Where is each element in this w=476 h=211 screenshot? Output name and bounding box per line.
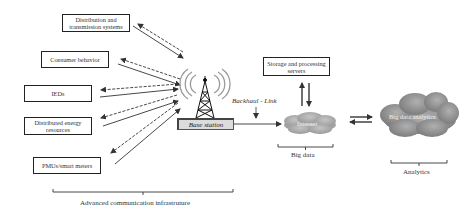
base-station: Base station xyxy=(177,118,234,130)
node-label: IEDs xyxy=(52,90,65,97)
node-label: Distributed energy resources xyxy=(27,119,89,133)
bracket-aci xyxy=(53,189,233,195)
node-ieds: IEDs xyxy=(24,85,92,102)
node-label: Consumer behavior xyxy=(50,56,100,63)
internet-label: Internet xyxy=(297,120,317,127)
node-label: PMUs/smart meters xyxy=(42,162,92,169)
node-consumer: Consumer behavior xyxy=(41,51,109,68)
aci-label: Advanced communication infrastruture xyxy=(80,199,190,207)
base-station-label: Base station xyxy=(189,121,223,129)
analytics-cloud-label: Big data analytics xyxy=(389,113,436,120)
node-label: Storage and processing servers xyxy=(266,60,327,74)
link-consumer xyxy=(118,59,180,85)
link-ieds xyxy=(100,84,178,97)
node-pmu: PMUs/smart meters xyxy=(33,157,101,174)
bracket-analytics xyxy=(391,160,447,166)
big-data-label: Big data xyxy=(291,151,315,159)
backhaul-link-label: Backhaul - Link xyxy=(232,97,277,105)
bracket-big-data xyxy=(278,144,333,150)
cell-tower-icon xyxy=(196,76,214,118)
link-der xyxy=(101,95,178,126)
analytics-label: Analytics xyxy=(403,168,430,176)
node-label: Distribution and transmission systems xyxy=(65,16,127,30)
node-storage: Storage and processing servers xyxy=(263,57,330,76)
node-distribution: Distribution and transmission systems xyxy=(62,14,130,32)
node-der: Distributed energy resources xyxy=(24,117,92,135)
link-distribution xyxy=(133,24,183,58)
radio-waves-icon xyxy=(180,69,230,99)
